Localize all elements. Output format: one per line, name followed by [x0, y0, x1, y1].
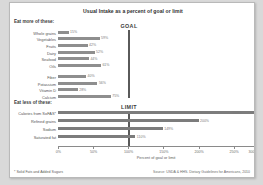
chart-title: Usual Intake as a percent of goal or lim…	[10, 8, 255, 14]
bar-vegetables	[58, 37, 100, 40]
bar-value-dairy: 52%	[96, 51, 103, 54]
x-axis-tick	[234, 146, 235, 149]
x-axis-tick-label: 50%	[90, 150, 97, 154]
category-label-sofas: Calories from SoFAS*	[10, 111, 56, 116]
bar-value-vitamin-d: 28%	[79, 89, 86, 92]
x-axis-tick-label: 300%	[248, 150, 255, 154]
category-label-refined-grains: Refined grains	[10, 119, 56, 124]
bar-whole-grains	[58, 31, 69, 34]
bar-value-whole-grains: 15%	[70, 31, 77, 34]
limit-reference-label: LIMIT	[121, 104, 137, 110]
category-label-vitamin-d: Vitamin D	[10, 88, 56, 93]
category-label-dairy: Dairy	[10, 51, 56, 56]
x-axis-tick-label: 0%	[56, 150, 61, 154]
category-label-vegetables: Vegetables	[10, 37, 56, 42]
bar-fruits	[58, 44, 88, 47]
bar-value-sofas: 280%	[232, 112, 241, 115]
x-axis-tick-label: 100%	[124, 150, 133, 154]
group-heading-eat-less: Eat less of these:	[14, 100, 52, 105]
x-axis-tick	[93, 146, 94, 149]
group-heading-eat-more: Eat more of these:	[14, 19, 54, 24]
category-label-seafood: Seafood	[10, 57, 56, 62]
bar-value-vegetables: 59%	[101, 37, 108, 40]
bar-value-fiber: 40%	[88, 75, 95, 78]
x-axis-tick-label: 150%	[159, 150, 168, 154]
bar-value-oils: 61%	[102, 64, 109, 67]
bar-value-calcium: 75%	[112, 95, 119, 98]
x-axis-tick-label: 250%	[229, 150, 238, 154]
bar-value-potassium: 56%	[99, 82, 106, 85]
category-label-sodium: Sodium	[10, 127, 56, 132]
x-axis-tick	[128, 146, 129, 149]
chart-source: Source: USDA & HHS. Dietary Guidelines f…	[153, 170, 250, 174]
bar-dairy	[58, 51, 95, 54]
category-label-saturated-fat: Saturated fat	[10, 135, 56, 140]
chart-card: Usual Intake as a percent of goal or lim…	[9, 2, 255, 178]
category-label-whole-grains: Whole grains	[10, 31, 56, 36]
x-axis-title: Percent of goal or limit	[137, 155, 176, 160]
bar-value-sodium: 149%	[164, 128, 173, 131]
x-axis-tick	[199, 146, 200, 149]
bar-sofas	[58, 111, 255, 114]
category-label-oils: Oils	[10, 64, 56, 69]
bar-value-saturated-fat: 110%	[137, 136, 146, 139]
category-label-fruits: Fruits	[10, 44, 56, 49]
x-axis-tick	[58, 146, 59, 149]
bar-saturated-fat	[58, 135, 135, 138]
bar-value-refined-grains: 200%	[200, 120, 209, 123]
bar-sodium	[58, 127, 163, 130]
screenshot-root: Usual Intake as a percent of goal or lim…	[0, 0, 263, 185]
bar-refined-grains	[58, 119, 199, 122]
goal-reference-line	[128, 30, 129, 98]
bar-seafood	[58, 57, 89, 60]
bar-value-seafood: 44%	[90, 58, 97, 61]
bar-fiber	[58, 75, 86, 78]
bar-value-fruits: 42%	[89, 44, 96, 47]
x-axis-tick	[163, 146, 164, 149]
bar-calcium	[58, 95, 111, 98]
category-label-calcium: Calcium	[10, 95, 56, 100]
chart-plot-area: Eat more of these: Eat less of these: GO…	[10, 17, 255, 157]
chart-footnote: * Solid Fats and Added Sugars	[14, 170, 63, 174]
bar-potassium	[58, 82, 97, 85]
category-label-potassium: Potassium	[10, 82, 56, 87]
bar-oils	[58, 64, 101, 67]
goal-reference-label: GOAL	[120, 23, 137, 29]
x-axis-tick-label: 200%	[194, 150, 203, 154]
category-label-fiber: Fiber	[10, 75, 56, 80]
bar-vitamin-d	[58, 88, 78, 91]
x-axis-line	[58, 146, 255, 147]
